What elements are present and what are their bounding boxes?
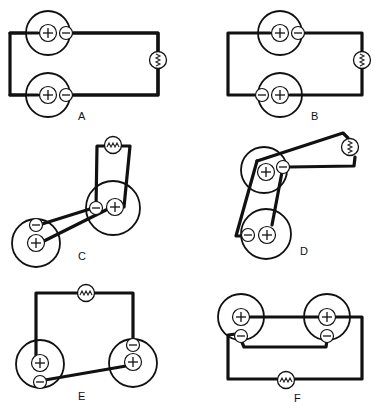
minus-terminal-icon — [277, 161, 290, 174]
minus-terminal-icon — [256, 89, 269, 102]
plus-terminal-icon — [125, 354, 142, 371]
panel-f: F — [218, 294, 362, 404]
panel-b: B — [228, 11, 371, 122]
plus-terminal-icon — [40, 87, 57, 104]
plus-terminal-icon — [272, 25, 289, 42]
panel-e: E — [16, 285, 157, 403]
lamp-icon — [78, 285, 95, 302]
panel-c: C — [12, 137, 140, 268]
plus-terminal-icon — [40, 25, 57, 42]
minus-terminal-icon — [90, 202, 103, 215]
plus-terminal-icon — [107, 199, 124, 216]
plus-terminal-icon — [272, 87, 289, 104]
lamp-icon — [342, 139, 359, 156]
panel-label-d: D — [300, 245, 308, 257]
minus-terminal-icon — [30, 219, 43, 232]
minus-terminal-icon — [127, 339, 140, 352]
minus-terminal-icon — [34, 376, 47, 389]
minus-terminal-icon — [235, 330, 248, 343]
plus-terminal-icon — [319, 309, 336, 326]
lamp-icon — [354, 52, 371, 69]
panel-label-f: F — [294, 392, 301, 404]
plus-terminal-icon — [259, 227, 276, 244]
panel-label-a: A — [78, 110, 86, 122]
minus-terminal-icon — [60, 27, 73, 40]
panel-d: D — [236, 133, 359, 259]
minus-terminal-icon — [60, 89, 73, 102]
minus-terminal-icon — [242, 229, 255, 242]
panel-label-c: C — [78, 250, 86, 262]
panel-label-e: E — [78, 390, 85, 402]
lamp-icon — [150, 52, 167, 69]
panel-a: A — [10, 11, 167, 122]
lamp-icon — [105, 137, 122, 154]
circuit-diagram: A B C D — [0, 0, 380, 409]
panel-label-b: B — [311, 110, 318, 122]
plus-terminal-icon — [258, 164, 275, 181]
minus-terminal-icon — [321, 330, 334, 343]
minus-terminal-icon — [292, 27, 305, 40]
plus-terminal-icon — [233, 309, 250, 326]
plus-terminal-icon — [28, 235, 45, 252]
plus-terminal-icon — [32, 355, 49, 372]
lamp-icon — [278, 372, 295, 389]
